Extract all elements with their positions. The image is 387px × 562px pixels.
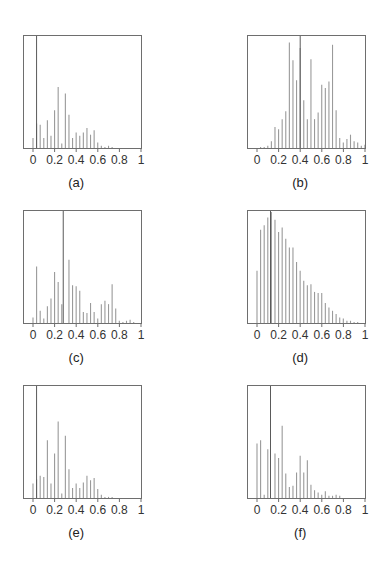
chart-panel-e: 00.20.40.60.81(e) [23, 385, 216, 560]
panel-caption: (e) [56, 525, 96, 540]
x-tick-label: 1 [350, 503, 380, 517]
chart-panel-f: 00.20.40.60.81(f) [247, 385, 387, 560]
x-tick-label: 1 [350, 328, 380, 342]
x-tick-label: 1 [126, 503, 156, 517]
bar-plot-b [247, 35, 368, 154]
chart-panel-b: 00.20.40.60.81(b) [247, 35, 387, 210]
chart-panel-d: 00.20.40.60.81(d) [247, 210, 387, 385]
plot-frame [24, 211, 142, 324]
plot-frame [248, 211, 366, 324]
chart-panel-c: 00.20.40.60.81(c) [23, 210, 216, 385]
panel-caption: (c) [56, 350, 96, 365]
plot-frame [248, 36, 366, 149]
x-tick-label: 1 [350, 153, 380, 167]
x-tick-label: 1 [126, 153, 156, 167]
bar-plot-d [247, 210, 368, 329]
bar-plot-f [247, 385, 368, 504]
bar-plot-c [23, 210, 144, 329]
plot-frame [248, 386, 366, 499]
bar-plot-e [23, 385, 144, 504]
bar-plot-a [23, 35, 144, 154]
panel-caption: (d) [280, 350, 320, 365]
x-tick-label: 1 [126, 328, 156, 342]
plot-frame [24, 36, 142, 149]
panel-caption: (a) [56, 175, 96, 190]
panel-caption: (f) [280, 525, 320, 540]
plot-frame [24, 386, 142, 499]
chart-panel-a: 00.20.40.60.81(a) [23, 35, 216, 210]
panel-caption: (b) [280, 175, 320, 190]
